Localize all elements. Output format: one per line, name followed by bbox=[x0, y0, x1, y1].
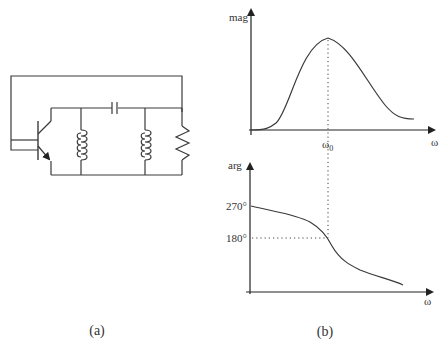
mag-omega-label: ω bbox=[431, 136, 438, 148]
capacitor-icon bbox=[112, 102, 117, 114]
transistor-icon bbox=[11, 108, 51, 175]
panel-a-label: (a) bbox=[89, 323, 105, 339]
inductor-left-icon bbox=[77, 108, 87, 175]
panel-b-label: (b) bbox=[317, 324, 334, 340]
magnitude-curve bbox=[251, 38, 414, 130]
phase-curve bbox=[251, 206, 403, 285]
inductor-right-icon bbox=[141, 108, 151, 175]
mag-axis-label: mag bbox=[229, 11, 248, 23]
arg-omega-label: ω bbox=[424, 295, 431, 307]
oscillator-circuit bbox=[11, 76, 189, 175]
figure-canvas: (a) mag ω ω0 arg ω 270° 180° (b) bbox=[0, 0, 447, 348]
feedback-wire bbox=[11, 76, 182, 150]
ytick-270: 270° bbox=[226, 200, 247, 212]
arg-axis-label: arg bbox=[228, 159, 242, 171]
phase-plot: arg ω 270° 180° bbox=[226, 159, 432, 307]
resistor-icon bbox=[176, 108, 189, 175]
magnitude-plot: mag ω ω0 bbox=[229, 10, 438, 238]
ytick-180: 180° bbox=[226, 232, 247, 244]
